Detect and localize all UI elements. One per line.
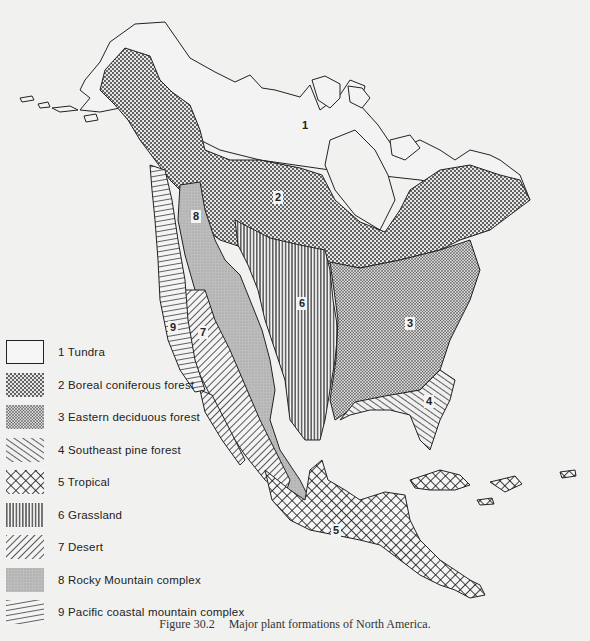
label-rocky: 8	[191, 210, 201, 223]
caption-text: Major plant formations of North America.	[229, 617, 431, 631]
grassland-swatch-icon	[6, 503, 44, 527]
label-southeast-pine: 4	[424, 395, 434, 408]
region-tropical	[265, 460, 576, 598]
figure-caption: Figure 30.2Major plant formations of Nor…	[0, 617, 590, 632]
label-tundra: 1	[300, 119, 310, 132]
boreal-swatch-icon	[6, 373, 44, 397]
eastern-swatch-icon	[6, 405, 44, 429]
label-eastern: 3	[405, 317, 415, 330]
tundra-swatch-icon	[6, 340, 44, 364]
legend-item-desert: 7 Desert	[6, 531, 266, 564]
rocky-swatch-icon	[6, 568, 44, 592]
label-grassland: 6	[297, 297, 307, 310]
legend-item-eastern: 3 Eastern deciduous forest	[6, 401, 266, 434]
legend-item-tundra: 1 Tundra	[6, 336, 266, 369]
legend: 1 Tundra 2 Boreal coniferous forest 3 Ea…	[6, 336, 266, 629]
tropical-swatch-icon	[6, 470, 44, 494]
label-pacific: 9	[168, 321, 178, 334]
legend-item-rocky: 8 Rocky Mountain complex	[6, 564, 266, 597]
figure-number: Figure 30.2	[159, 617, 214, 631]
legend-item-tropical: 5 Tropical	[6, 466, 266, 499]
legend-item-grassland: 6 Grassland	[6, 499, 266, 532]
legend-item-boreal: 2 Boreal coniferous forest	[6, 369, 266, 402]
southeast-pine-swatch-icon	[6, 438, 44, 462]
legend-item-southeast-pine: 4 Southeast pine forest	[6, 434, 266, 467]
desert-swatch-icon	[6, 535, 44, 559]
label-boreal: 2	[273, 191, 283, 204]
label-tropical: 5	[331, 524, 341, 537]
